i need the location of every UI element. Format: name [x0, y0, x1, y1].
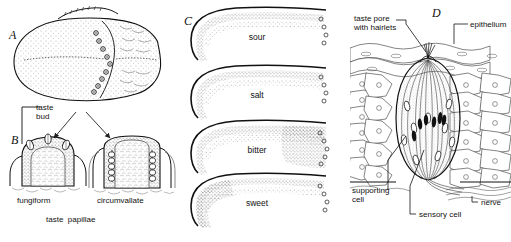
taste-label-sweet: sweet	[246, 198, 269, 208]
tongue-salt: salt	[191, 65, 328, 120]
taste-bud-row-right	[150, 152, 156, 181]
taste-bud-label-line1: taste	[36, 103, 53, 112]
panel-letter-b: B	[11, 133, 18, 148]
panel-a-tongue-drawing	[0, 0, 180, 115]
panel-letter-d: D	[432, 6, 441, 21]
tongue-outline	[14, 6, 161, 101]
panel-letter-a: A	[9, 28, 16, 43]
figure-root: A	[0, 0, 511, 242]
supporting-cell-label-line1: supporting	[352, 186, 389, 195]
tongue-sour: sour	[191, 7, 328, 62]
epithelium-polygonal-left	[350, 73, 392, 186]
fungiform-papilla	[10, 134, 86, 192]
nerve-label: nerve	[481, 198, 501, 207]
taste-bud-label-line2: bud	[36, 112, 49, 121]
taste-pore-label-line1: taste pore	[354, 14, 390, 23]
pointer-arrows	[54, 112, 110, 138]
epithelium-label: epithelium	[470, 20, 506, 29]
taste-label-bitter: bitter	[248, 145, 267, 155]
panel-c-taste-maps: sour salt	[180, 0, 345, 242]
tongue-bitter: bitter	[191, 120, 329, 175]
panel-b-papillae-sections	[0, 100, 190, 230]
taste-label-salt: salt	[250, 90, 264, 100]
taste-pore-label-line2: with hairlets	[354, 23, 396, 32]
sensory-cell-label: sensory cell	[419, 210, 461, 219]
taste-bud-row-left	[109, 152, 115, 181]
taste-label-sour: sour	[249, 32, 266, 42]
tongue-sweet: sweet	[191, 173, 329, 228]
circumvallate-papilla	[89, 136, 175, 194]
panel-letter-c: C	[184, 14, 192, 29]
taste-papillae-caption: taste papillae	[46, 215, 95, 224]
supporting-cell-label-line2: cell	[352, 195, 364, 204]
fungiform-label: fungiform	[17, 196, 50, 205]
circumvallate-label: circumvallate	[97, 196, 144, 205]
